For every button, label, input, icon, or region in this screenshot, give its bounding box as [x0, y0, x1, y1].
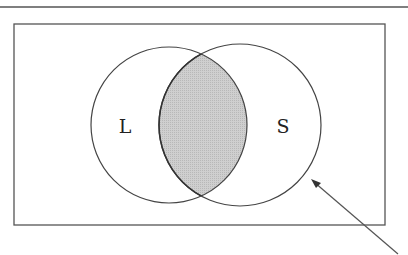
set-s-label: S	[276, 115, 289, 137]
intersection-shading	[159, 44, 321, 206]
set-l-label: L	[119, 115, 132, 137]
venn-diagram: L S	[0, 0, 408, 255]
